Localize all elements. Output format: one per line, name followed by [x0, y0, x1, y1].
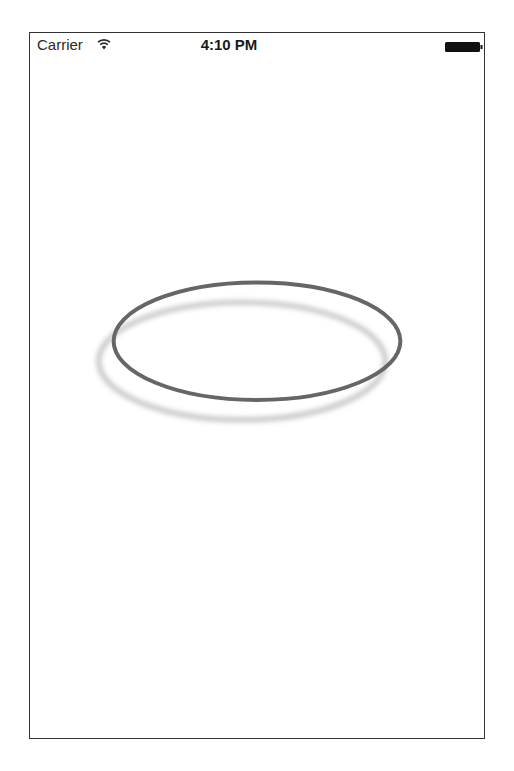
ellipse-shadow	[99, 302, 386, 419]
phone-screen: Carrier 4:10 PM	[29, 32, 485, 739]
ellipse-shape	[114, 282, 401, 399]
drawing-canvas	[30, 33, 484, 738]
